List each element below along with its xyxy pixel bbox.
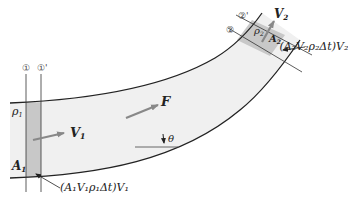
momentum-in-label: (A₁V₁ρ₁Δt)V₁ <box>60 182 129 193</box>
v1-label: V1 <box>70 126 86 141</box>
a1-label: A1 <box>12 160 26 173</box>
section-1-label: ① <box>22 64 30 73</box>
section-2-label: ② <box>226 26 234 35</box>
theta-label: θ <box>168 134 174 144</box>
rho1-label: ρ1 <box>12 106 23 119</box>
section-1-prime-label: ①' <box>37 64 48 73</box>
section-2-prime-label: ②' <box>238 12 249 21</box>
v2-label: V2 <box>274 8 288 21</box>
f-label: F <box>161 95 170 108</box>
rho2-label: ρ2 <box>254 26 264 37</box>
momentum-out-label: (A₂V₂ρ₂Δt)V₂ <box>279 41 348 52</box>
